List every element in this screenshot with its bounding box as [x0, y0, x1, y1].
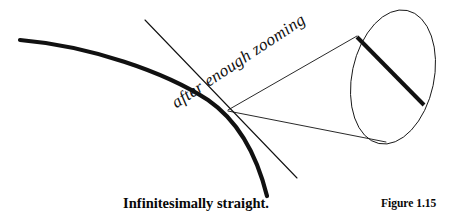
figure-caption: Infinitesimally straight.: [86, 195, 306, 212]
figure-number-label: Figure 1.15: [381, 197, 436, 209]
cone-lower-line: [228, 111, 386, 142]
figure-container: after enough zooming Infinitesimally str…: [0, 0, 454, 222]
magnified-chord: [357, 37, 424, 105]
drawing-layer: [20, 2, 447, 196]
figure-drawing: [0, 0, 454, 222]
magnifier-ellipse: [339, 2, 447, 152]
